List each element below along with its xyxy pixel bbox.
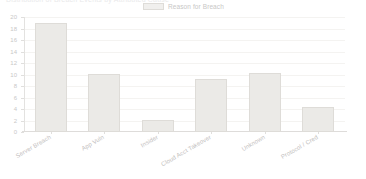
x-tick-label: Insider — [140, 134, 159, 149]
bar — [142, 120, 174, 132]
y-tick-mark — [21, 132, 24, 133]
y-tick-label: 2 — [1, 118, 17, 124]
bar-chart: Distribution of Breach Events by Attribu… — [0, 0, 366, 179]
chart-legend: Reason for Breach — [143, 2, 224, 11]
bar — [35, 23, 67, 132]
x-tick-label: Unknown — [240, 134, 265, 152]
x-tick-mark — [104, 132, 105, 134]
legend-swatch-icon — [143, 3, 164, 10]
y-tick-label: 10 — [1, 72, 17, 78]
y-tick-label: 12 — [1, 60, 17, 66]
x-tick-mark — [265, 132, 266, 134]
x-tick-label: Protocol / Cred — [280, 134, 319, 160]
y-tick-label: 18 — [1, 26, 17, 32]
x-tick-mark — [211, 132, 212, 134]
x-tick-mark — [51, 132, 52, 134]
y-tick-label: 20 — [1, 14, 17, 20]
legend-label: Reason for Breach — [168, 3, 224, 10]
x-tick-label: Server Breach — [14, 134, 51, 159]
y-tick-label: 0 — [1, 129, 17, 135]
bar — [195, 79, 227, 132]
y-tick-label: 14 — [1, 49, 17, 55]
bar — [249, 73, 281, 132]
y-tick-label: 8 — [1, 83, 17, 89]
x-tick-mark — [318, 132, 319, 134]
bar-series — [24, 17, 345, 132]
y-tick-label: 4 — [1, 106, 17, 112]
x-tick-mark — [158, 132, 159, 134]
x-tick-label: Cloud Acct Takeover — [160, 134, 212, 167]
bar — [302, 107, 334, 132]
bar — [88, 74, 120, 132]
x-tick-label: App Vuln — [81, 134, 106, 152]
plot-area: 02468101214161820 — [24, 17, 345, 132]
y-tick-label: 16 — [1, 37, 17, 43]
y-tick-label: 6 — [1, 95, 17, 101]
x-axis-labels: Server BreachApp VulnInsiderCloud Acct T… — [24, 134, 345, 179]
